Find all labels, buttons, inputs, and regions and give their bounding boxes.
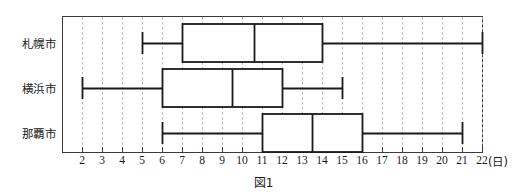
category-label-1: 札幌市 <box>22 35 57 51</box>
figure-caption: 図1 <box>0 173 527 190</box>
x-axis-unit-label: (日) <box>488 153 508 169</box>
box-iqr <box>183 24 323 62</box>
box-plot-series <box>163 114 463 152</box>
category-label-3: 那覇市 <box>22 125 57 141</box>
box-iqr <box>163 69 283 107</box>
box-plot-series <box>143 24 483 62</box>
box-plot-figure: 札幌市横浜市那覇市2345678910111213141516171819202… <box>0 0 527 196</box>
box-plot-canvas <box>0 0 527 196</box>
category-label-2: 横浜市 <box>22 80 57 96</box>
box-plot-series <box>83 69 343 107</box>
